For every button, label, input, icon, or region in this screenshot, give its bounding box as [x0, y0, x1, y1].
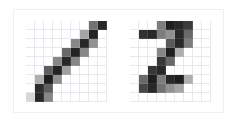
pixel-cell	[202, 84, 211, 93]
pixel-cell	[139, 75, 148, 84]
pixel-cell	[98, 84, 107, 93]
pixel-cell	[53, 84, 62, 93]
pixel-cell	[166, 84, 175, 93]
pixel-cell	[193, 39, 202, 48]
pixel-cell	[62, 84, 71, 93]
pixel-cell	[157, 48, 166, 57]
pixel-cell	[130, 21, 139, 30]
pixel-cell	[148, 93, 157, 102]
pixel-cell	[193, 57, 202, 66]
pixel-cell	[80, 84, 89, 93]
pixel-cell	[166, 48, 175, 57]
pixel-cell	[202, 75, 211, 84]
pixel-cell	[98, 48, 107, 57]
pixel-cell	[139, 93, 148, 102]
digit-panel-1	[26, 21, 107, 102]
pixel-cell	[71, 57, 80, 66]
pixel-grid-2	[130, 21, 211, 102]
pixel-cell	[166, 66, 175, 75]
pixel-cell	[148, 30, 157, 39]
pixel-cell	[89, 39, 98, 48]
pixel-cell	[89, 57, 98, 66]
pixel-cell	[202, 48, 211, 57]
pixel-cell	[157, 84, 166, 93]
pixel-cell	[71, 39, 80, 48]
pixel-cell	[71, 66, 80, 75]
pixel-cell	[53, 75, 62, 84]
pixel-cell	[157, 93, 166, 102]
pixel-cell	[89, 21, 98, 30]
pixel-cell	[53, 39, 62, 48]
pixel-cell	[166, 21, 175, 30]
pixel-cell	[130, 39, 139, 48]
pixel-cell	[130, 93, 139, 102]
pixel-cell	[53, 66, 62, 75]
pixel-cell	[62, 48, 71, 57]
pixel-cell	[202, 93, 211, 102]
pixel-cell	[157, 57, 166, 66]
pixel-cell	[44, 21, 53, 30]
pixel-cell	[202, 66, 211, 75]
pixel-cell	[166, 93, 175, 102]
pixel-cell	[98, 39, 107, 48]
pixel-cell	[62, 57, 71, 66]
pixel-cell	[71, 48, 80, 57]
pixel-cell	[139, 30, 148, 39]
pixel-cell	[202, 57, 211, 66]
pixel-cell	[80, 48, 89, 57]
pixel-cell	[35, 30, 44, 39]
pixel-cell	[184, 93, 193, 102]
pixel-cell	[139, 39, 148, 48]
figure-frame	[13, 9, 224, 113]
pixel-cell	[35, 66, 44, 75]
pixel-cell	[80, 93, 89, 102]
pixel-cell	[175, 39, 184, 48]
pixel-cell	[26, 39, 35, 48]
pixel-cell	[175, 84, 184, 93]
pixel-cell	[53, 48, 62, 57]
pixel-cell	[184, 75, 193, 84]
pixel-cell	[166, 39, 175, 48]
pixel-cell	[202, 30, 211, 39]
pixel-cell	[175, 66, 184, 75]
pixel-cell	[53, 93, 62, 102]
pixel-cell	[35, 75, 44, 84]
pixel-cell	[89, 66, 98, 75]
pixel-cell	[71, 21, 80, 30]
pixel-cell	[62, 93, 71, 102]
pixel-cell	[184, 48, 193, 57]
pixel-cell	[130, 30, 139, 39]
digit-panels-container	[14, 10, 223, 112]
pixel-cell	[175, 75, 184, 84]
pixel-cell	[148, 39, 157, 48]
pixel-cell	[175, 30, 184, 39]
pixel-cell	[139, 21, 148, 30]
pixel-cell	[44, 48, 53, 57]
pixel-cell	[98, 57, 107, 66]
pixel-cell	[98, 30, 107, 39]
pixel-cell	[53, 21, 62, 30]
pixel-cell	[130, 75, 139, 84]
pixel-cell	[184, 57, 193, 66]
pixel-cell	[26, 84, 35, 93]
pixel-cell	[80, 66, 89, 75]
pixel-cell	[130, 66, 139, 75]
pixel-cell	[148, 75, 157, 84]
pixel-cell	[35, 48, 44, 57]
pixel-cell	[202, 21, 211, 30]
pixel-cell	[157, 30, 166, 39]
pixel-cell	[184, 30, 193, 39]
pixel-cell	[193, 48, 202, 57]
screenshot-root	[0, 0, 238, 123]
pixel-cell	[44, 57, 53, 66]
pixel-cell	[148, 48, 157, 57]
pixel-cell	[89, 48, 98, 57]
pixel-cell	[130, 48, 139, 57]
pixel-cell	[44, 39, 53, 48]
pixel-cell	[193, 30, 202, 39]
pixel-cell	[193, 75, 202, 84]
pixel-cell	[53, 30, 62, 39]
pixel-cell	[89, 30, 98, 39]
pixel-cell	[175, 48, 184, 57]
pixel-cell	[166, 57, 175, 66]
